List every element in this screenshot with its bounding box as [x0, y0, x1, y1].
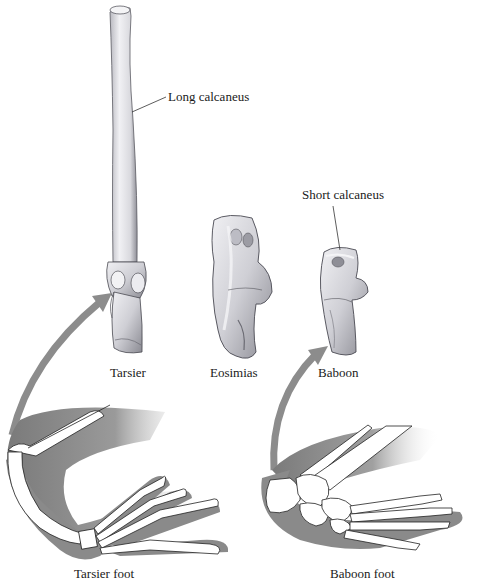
tarsier-calcaneus-bone [107, 6, 147, 353]
label-baboon: Baboon [318, 366, 358, 379]
short-calcaneus-leader [333, 206, 340, 250]
eosimias-calcaneus-bone [212, 215, 272, 358]
calcaneus-comparison-figure [0, 0, 477, 582]
tarsier-foot-skeleton [6, 405, 228, 559]
label-short-calcaneus: Short calcaneus [302, 188, 384, 201]
label-baboon-foot: Baboon foot [330, 567, 395, 580]
long-calcaneus-leader [132, 97, 166, 112]
baboon-foot-skeleton [261, 425, 462, 550]
label-tarsier: Tarsier [110, 366, 146, 379]
label-long-calcaneus: Long calcaneus [168, 90, 249, 103]
label-tarsier-foot: Tarsier foot [74, 567, 134, 580]
label-eosimias: Eosimias [210, 366, 258, 379]
baboon-calcaneus-bone [320, 247, 368, 355]
